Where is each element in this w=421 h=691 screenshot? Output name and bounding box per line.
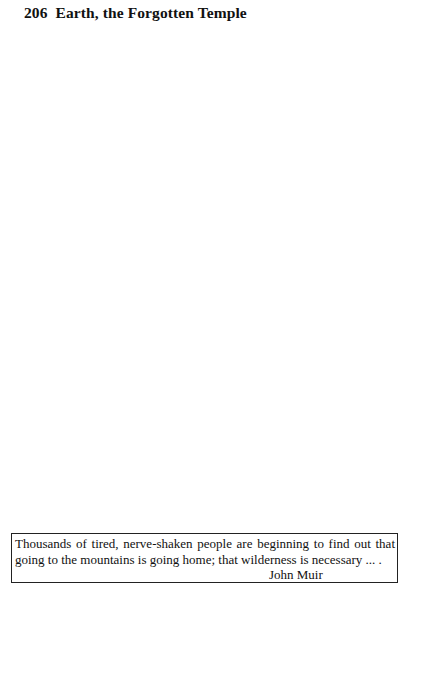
running-header: 206 Earth, the Forgotten Temple <box>24 4 247 22</box>
epigraph-box: Thousands of tired, nerve-shaken people … <box>11 533 398 583</box>
quote-line: going to the mountains is going home; th… <box>15 552 395 568</box>
book-title: Earth, the Forgotten Temple <box>56 4 247 21</box>
quote-text: Thousands of tired, nerve-shaken people … <box>15 536 395 567</box>
quote-line: Thousands of tired, nerve-shaken people … <box>15 536 395 552</box>
quote-author: John Muir <box>15 567 395 583</box>
page-number: 206 <box>24 4 48 21</box>
